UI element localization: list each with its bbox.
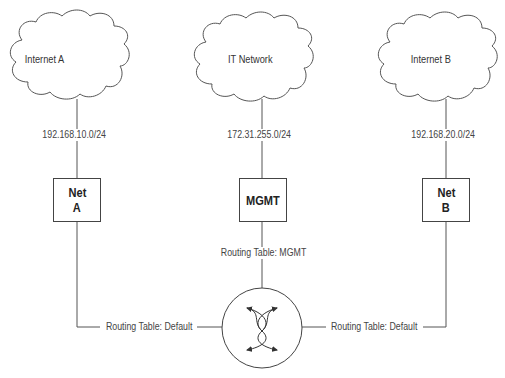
- cloud-label-it-network: IT Network: [228, 53, 273, 65]
- routing-table-default-left-label: Routing Table: Default: [104, 321, 194, 333]
- routing-table-default-right-label: Routing Table: Default: [329, 321, 419, 333]
- node-net-a-line2: A: [73, 200, 81, 215]
- subnet-label-a: 192.168.10.0/24: [41, 129, 108, 141]
- node-net-b-line1: Net: [437, 185, 455, 200]
- cloud-label-internet-b: Internet B: [411, 53, 451, 65]
- node-mgmt: MGMT: [239, 178, 287, 222]
- subnet-label-mgmt: 172.31.255.0/24: [226, 129, 293, 141]
- subnet-label-b: 192.168.20.0/24: [410, 129, 477, 141]
- cloud-label-internet-a: Internet A: [25, 53, 65, 65]
- node-net-a: Net A: [53, 178, 101, 222]
- node-mgmt-label: MGMT: [246, 193, 280, 208]
- node-net-b-line2: B: [442, 200, 450, 215]
- node-net-b: Net B: [422, 178, 470, 222]
- node-net-a-line1: Net: [68, 185, 86, 200]
- routing-table-mgmt-label: Routing Table: MGMT: [219, 247, 308, 259]
- router-icon: [222, 288, 302, 368]
